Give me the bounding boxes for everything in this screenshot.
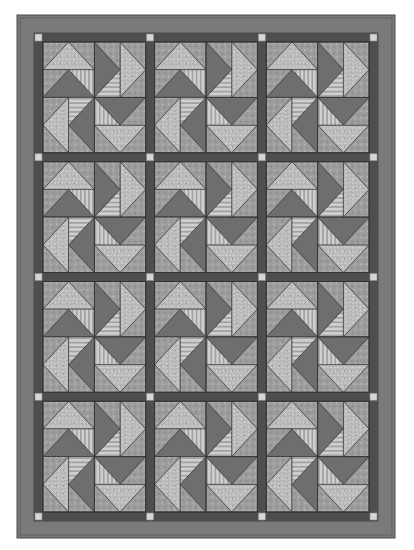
- block-quadrant: [206, 97, 257, 152]
- block-quadrant: [318, 162, 369, 217]
- block-quadrant: [318, 401, 369, 456]
- block-quadrant: [43, 282, 94, 337]
- quilt-block: [155, 401, 258, 512]
- cornerstone: [258, 513, 265, 520]
- block-quadrant: [318, 457, 369, 512]
- block-quadrant: [206, 282, 257, 337]
- block-quadrant: [94, 337, 145, 392]
- cornerstone: [147, 393, 154, 400]
- quilt-block: [266, 401, 369, 512]
- block-quadrant: [266, 401, 317, 456]
- block-quadrant: [43, 337, 94, 392]
- block-quadrant: [266, 217, 317, 272]
- quilt-block: [266, 162, 369, 273]
- block-quadrant: [43, 42, 94, 97]
- block-quadrant: [266, 42, 317, 97]
- block-quadrant: [94, 401, 145, 456]
- cornerstone: [35, 34, 42, 41]
- block-quadrant: [266, 457, 317, 512]
- cornerstone: [370, 274, 377, 281]
- quilt-block: [43, 282, 146, 393]
- quilt-block: [43, 162, 146, 273]
- block-quadrant: [155, 337, 206, 392]
- block-quadrant: [155, 162, 206, 217]
- cornerstone: [35, 393, 42, 400]
- cornerstone: [35, 274, 42, 281]
- cornerstone: [370, 34, 377, 41]
- cornerstone: [258, 34, 265, 41]
- cornerstone: [258, 274, 265, 281]
- block-quadrant: [94, 162, 145, 217]
- quilt-block: [155, 42, 258, 153]
- block-quadrant: [43, 217, 94, 272]
- cornerstone: [370, 513, 377, 520]
- cornerstone: [147, 154, 154, 161]
- quilt-block: [43, 401, 146, 512]
- quilt-block: [155, 282, 258, 393]
- block-quadrant: [94, 282, 145, 337]
- block-quadrant: [206, 337, 257, 392]
- block-quadrant: [206, 42, 257, 97]
- block-quadrant: [155, 457, 206, 512]
- block-quadrant: [206, 457, 257, 512]
- block-quadrant: [155, 282, 206, 337]
- quilt-block: [266, 282, 369, 393]
- cornerstone: [370, 393, 377, 400]
- quilt: [17, 15, 395, 538]
- cornerstone: [258, 393, 265, 400]
- cornerstone: [147, 513, 154, 520]
- block-quadrant: [43, 457, 94, 512]
- cornerstone: [147, 34, 154, 41]
- block-quadrant: [94, 42, 145, 97]
- block-quadrant: [318, 42, 369, 97]
- block-quadrant: [206, 217, 257, 272]
- block-quadrant: [94, 457, 145, 512]
- block-quadrant: [318, 97, 369, 152]
- cornerstone: [35, 154, 42, 161]
- quilt-canvas: [0, 0, 414, 550]
- block-quadrant: [318, 217, 369, 272]
- cornerstone: [35, 513, 42, 520]
- quilt-block: [266, 42, 369, 153]
- cornerstone: [147, 274, 154, 281]
- cornerstone: [258, 154, 265, 161]
- block-quadrant: [94, 217, 145, 272]
- block-quadrant: [266, 97, 317, 152]
- block-quadrant: [318, 337, 369, 392]
- block-quadrant: [155, 97, 206, 152]
- block-quadrant: [94, 97, 145, 152]
- block-quadrant: [43, 97, 94, 152]
- block-quadrant: [43, 162, 94, 217]
- block-quadrant: [266, 337, 317, 392]
- block-quadrant: [206, 162, 257, 217]
- block-quadrant: [155, 401, 206, 456]
- block-quadrant: [155, 42, 206, 97]
- block-quadrant: [266, 282, 317, 337]
- cornerstone: [370, 154, 377, 161]
- block-quadrant: [155, 217, 206, 272]
- block-quadrant: [43, 401, 94, 456]
- quilt-block: [155, 162, 258, 273]
- quilt-block: [43, 42, 146, 153]
- block-quadrant: [266, 162, 317, 217]
- block-quadrant: [206, 401, 257, 456]
- block-quadrant: [318, 282, 369, 337]
